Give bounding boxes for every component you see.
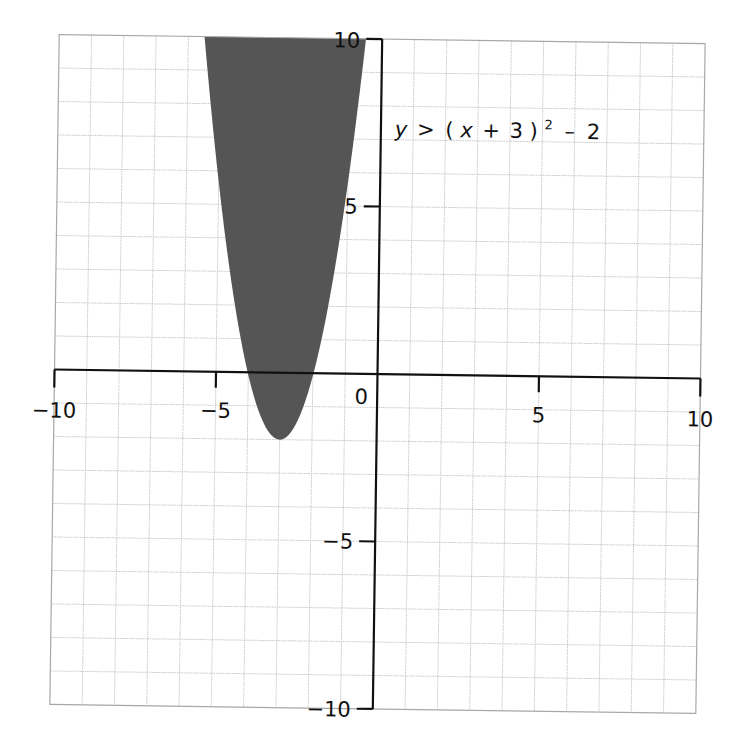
eq-lhs: y — [394, 117, 408, 141]
eq-paren-close: ) — [530, 119, 539, 143]
y-tick-label-m10: −10 — [306, 697, 351, 722]
inequality-graph: −10 −5 0 5 10 10 5 −5 −10 y > ( x + 3 ) … — [0, 0, 746, 750]
eq-op: > — [417, 118, 435, 142]
equation-label: y > ( x + 3 ) 2 – 2 — [394, 108, 601, 144]
y-tick-label-5: 5 — [344, 195, 358, 219]
x-tick-label-m5: −5 — [200, 399, 231, 423]
x-tick-label-5: 5 — [532, 403, 546, 427]
x-tick-label-m10: −10 — [32, 398, 77, 423]
eq-exponent: 2 — [545, 117, 553, 132]
eq-plus: + — [482, 118, 500, 142]
x-tick-label-10: 10 — [686, 407, 713, 431]
eq-offset: 2 — [587, 120, 601, 144]
eq-minus: – — [564, 120, 575, 144]
eq-const: 3 — [509, 119, 523, 143]
origin-label: 0 — [354, 385, 368, 409]
eq-paren-open: ( — [445, 118, 454, 142]
shaded-region — [199, 37, 366, 441]
y-tick-label-10: 10 — [333, 28, 360, 52]
y-tick-label-m5: −5 — [322, 529, 353, 553]
eq-var: x — [459, 118, 473, 142]
